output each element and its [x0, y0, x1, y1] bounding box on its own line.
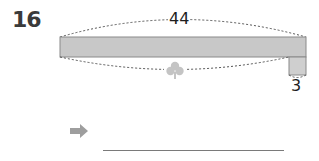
short-length-label: 3 — [291, 78, 301, 94]
clover-icon — [164, 62, 186, 79]
tape-diagram — [0, 0, 319, 161]
answer-line[interactable] — [103, 150, 284, 151]
short-tape — [289, 57, 306, 75]
long-length-label: 44 — [168, 11, 190, 27]
arrow-right-icon — [70, 124, 88, 138]
long-tape — [60, 37, 306, 57]
